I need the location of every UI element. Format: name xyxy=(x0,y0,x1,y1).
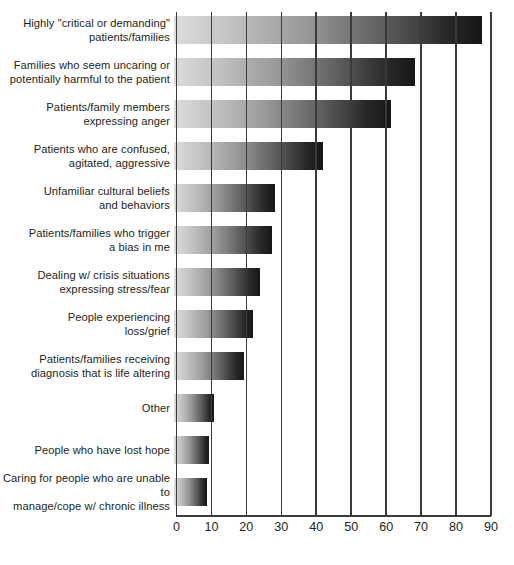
bar-track xyxy=(174,51,514,93)
bar-5 xyxy=(174,226,272,254)
tick-label-20: 20 xyxy=(239,519,253,535)
horizontal-bar-chart: Highly "critical or demanding" patients/… xyxy=(0,0,514,565)
tick-label-70: 70 xyxy=(414,519,428,535)
category-label: Patients/families who trigger a bias in … xyxy=(0,226,174,254)
bar-9 xyxy=(174,394,214,422)
bar-track xyxy=(174,261,514,303)
bar-track xyxy=(174,9,514,51)
bar-row: Patients/families receiving diagnosis th… xyxy=(0,345,514,387)
category-label: Patients/family members expressing anger xyxy=(0,100,174,128)
bar-row: People who have lost hope xyxy=(0,429,514,471)
tick-label-0: 0 xyxy=(173,519,180,535)
tick-label-10: 10 xyxy=(204,519,218,535)
bar-row: Families who seem uncaring or potentiall… xyxy=(0,51,514,93)
tick-label-90: 90 xyxy=(484,519,498,535)
bar-track xyxy=(174,135,514,177)
category-label: Families who seem uncaring or potentiall… xyxy=(0,58,174,86)
bar-7 xyxy=(174,310,253,338)
category-label: Highly "critical or demanding" patients/… xyxy=(0,16,174,44)
tick-label-60: 60 xyxy=(379,519,393,535)
bar-track xyxy=(174,471,514,513)
bar-4 xyxy=(174,184,275,212)
bar-row: Patients who are confused, agitated, agg… xyxy=(0,135,514,177)
category-label: Dealing w/ crisis situations expressing … xyxy=(0,268,174,296)
category-label: Unfamiliar cultural beliefs and behavior… xyxy=(0,184,174,212)
bar-row: Dealing w/ crisis situations expressing … xyxy=(0,261,514,303)
bar-2 xyxy=(174,100,391,128)
chart-plot-area: Highly "critical or demanding" patients/… xyxy=(0,0,514,516)
tick-label-30: 30 xyxy=(274,519,288,535)
bar-row: Patients/families who trigger a bias in … xyxy=(0,219,514,261)
x-axis-line xyxy=(176,515,491,517)
bar-track xyxy=(174,387,514,429)
tick-label-50: 50 xyxy=(344,519,358,535)
bar-track xyxy=(174,303,514,345)
bar-8 xyxy=(174,352,244,380)
bar-track xyxy=(174,429,514,471)
bar-3 xyxy=(174,142,323,170)
bar-0 xyxy=(174,16,482,44)
bar-1 xyxy=(174,58,415,86)
bar-row: Highly "critical or demanding" patients/… xyxy=(0,9,514,51)
bar-row: Unfamiliar cultural beliefs and behavior… xyxy=(0,177,514,219)
bar-track xyxy=(174,345,514,387)
tick-label-40: 40 xyxy=(309,519,323,535)
bar-6 xyxy=(174,268,260,296)
category-label: Patients who are confused, agitated, agg… xyxy=(0,142,174,170)
category-label: People experiencing loss/grief xyxy=(0,310,174,338)
bar-row: Caring for people who are unable to mana… xyxy=(0,471,514,513)
category-label: Caring for people who are unable to mana… xyxy=(0,471,174,514)
bar-row: Other xyxy=(0,387,514,429)
bar-row: Patients/family members expressing anger xyxy=(0,93,514,135)
category-label: People who have lost hope xyxy=(0,443,174,457)
category-label: Other xyxy=(0,401,174,415)
tick-label-80: 80 xyxy=(449,519,463,535)
x-axis-tick-labels: 0102030405060708090 xyxy=(0,519,514,541)
bar-row: People experiencing loss/grief xyxy=(0,303,514,345)
bar-track xyxy=(174,93,514,135)
bar-track xyxy=(174,219,514,261)
bar-track xyxy=(174,177,514,219)
bar-10 xyxy=(174,436,209,464)
bar-11 xyxy=(174,478,207,506)
category-label: Patients/families receiving diagnosis th… xyxy=(0,352,174,380)
